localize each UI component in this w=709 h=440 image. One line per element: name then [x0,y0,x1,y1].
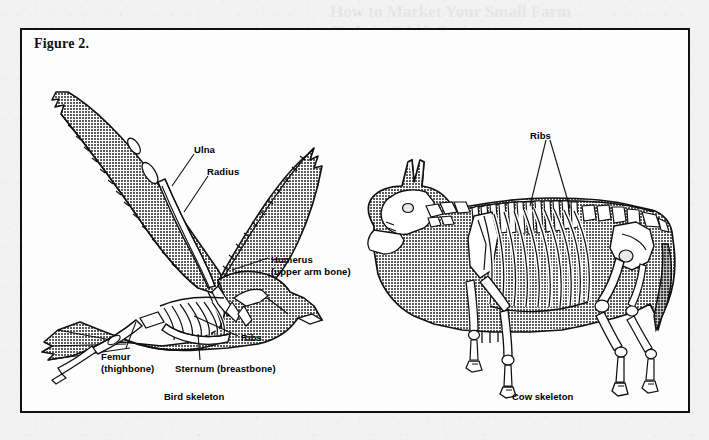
figure-box: Figure 2. [20,28,690,413]
ghost-text-line-1: How to Market Your Small Farm [330,2,571,22]
label-ulna: Ulna [194,144,215,156]
label-humerus-line1: Humerus [271,254,351,266]
cow-skeleton-illustration [368,160,675,398]
leader-line-ulna [172,154,194,186]
label-femur: Femur (thighbone) [101,351,154,374]
label-ribs-cow: Ribs [530,130,551,142]
label-radius: Radius [207,166,239,178]
leader-line-ribs-cow-left [530,140,546,206]
label-femur-line1: Femur [101,351,154,363]
label-ribs-bird: Ribs [241,332,262,344]
label-humerus-line2: (upper arm bone) [271,266,351,278]
label-humerus: Humerus (upper arm bone) [271,254,351,277]
bird-skeleton-illustration [42,92,322,384]
label-sternum: Sternum (breastbone) [175,363,276,375]
scanned-page: How to Market Your Small Farm Producing … [0,0,709,440]
leader-line-radius [184,176,208,212]
bird-body-silhouette [42,271,322,360]
caption-cow-skeleton: Cow skeleton [512,391,573,402]
label-femur-line2: (thighbone) [101,363,154,375]
caption-bird-skeleton: Bird skeleton [164,391,224,402]
